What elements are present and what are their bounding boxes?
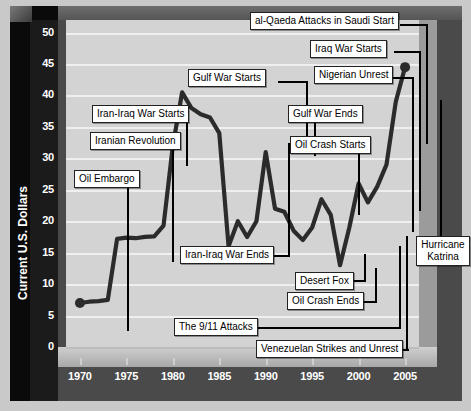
x-axis-tick-label: 1980 xyxy=(151,370,195,382)
y-axis-title: Current U.S. Dollars xyxy=(16,186,30,300)
leader-desert-fox-v xyxy=(364,254,366,282)
y-axis-tick-label: 50 xyxy=(6,26,54,38)
callout-iraq-war-starts: Iraq War Starts xyxy=(310,40,387,58)
chart-screenshot: 50454035302520151050 1970197519801985199… xyxy=(0,0,471,411)
y-axis-tick-label: 45 xyxy=(6,57,54,69)
x-axis-tick-mark xyxy=(80,358,82,365)
data-point-marker xyxy=(75,298,85,308)
data-point-marker xyxy=(400,62,410,72)
leader-oil-embargo xyxy=(127,186,129,331)
x-axis-tick-label: 1975 xyxy=(104,370,148,382)
y-axis-tick-label: 25 xyxy=(6,183,54,195)
leader-iranian-revolution xyxy=(172,148,174,262)
y-axis-tick-label: 20 xyxy=(6,214,54,226)
callout-alqaeda-saudi: al-Qaeda Attacks in Saudi Start xyxy=(250,12,399,30)
y-axis-tick-label: 35 xyxy=(6,120,54,132)
x-axis-tick-label: 2005 xyxy=(383,370,427,382)
leader-911-v xyxy=(399,246,401,329)
leader-911-h xyxy=(256,327,401,329)
leader-iraq-war-starts-h xyxy=(394,51,421,53)
leader-gulf-war-starts-h xyxy=(278,81,308,83)
y-axis-tick-label: 10 xyxy=(6,277,54,289)
leader-nigerian-unrest-h xyxy=(392,77,414,79)
leader-oil-crash-starts xyxy=(358,152,360,215)
x-axis-tick-label: 1990 xyxy=(244,370,288,382)
x-axis-tick-mark xyxy=(219,358,221,365)
y-axis-tick-label: 5 xyxy=(6,309,54,321)
leader-alqaeda-h xyxy=(400,24,428,26)
leader-iraq-war-starts-v xyxy=(419,51,421,211)
callout-nigerian-unrest: Nigerian Unrest xyxy=(314,66,393,84)
x-axis-tick-mark xyxy=(173,358,175,365)
leader-oil-crash-ends-v xyxy=(375,268,377,303)
x-axis-tick-label: 1995 xyxy=(290,370,334,382)
x-axis-tick-mark xyxy=(312,358,314,365)
leader-nigerian-unrest-v xyxy=(412,77,414,232)
x-axis-tick-mark xyxy=(405,358,407,365)
y-axis-tick-label: 0 xyxy=(6,340,54,352)
x-axis-tick-mark xyxy=(359,358,361,365)
y-axis-tick-label: 15 xyxy=(6,246,54,258)
callout-oil-crash-starts: Oil Crash Starts xyxy=(290,136,371,154)
callout-hurricane-katrina-line1: Hurricane xyxy=(421,239,464,250)
leader-iran-iraq-war-ends xyxy=(288,143,290,256)
x-axis-tick-label: 1970 xyxy=(58,370,102,382)
x-axis-tick-mark xyxy=(266,358,268,365)
y-axis-wall-corner xyxy=(10,6,32,22)
callout-venezuelan-strikes: Venezuelan Strikes and Unrest xyxy=(256,340,403,358)
callout-hurricane-katrina: Hurricane Katrina xyxy=(416,236,470,266)
callout-iran-iraq-war-ends: Iran-Iraq War Ends xyxy=(180,246,274,264)
callout-gulf-war-starts: Gulf War Starts xyxy=(188,69,266,87)
x-axis-tick-label: 2000 xyxy=(337,370,381,382)
leader-iran-iraq-war-starts xyxy=(186,121,188,166)
callout-oil-embargo: Oil Embargo xyxy=(74,170,140,188)
callout-the-911-attacks: The 9/11 Attacks xyxy=(174,318,258,336)
callout-desert-fox: Desert Fox xyxy=(295,272,354,290)
x-axis-tick-mark xyxy=(126,358,128,365)
leader-alqaeda-v xyxy=(426,24,428,144)
plot-area-right-shadow xyxy=(419,20,437,347)
y-axis-tick-label: 40 xyxy=(6,88,54,100)
leader-hurricane-katrina xyxy=(440,100,442,240)
x-axis-tick-label: 1985 xyxy=(197,370,241,382)
leader-venezuelan-v xyxy=(406,236,408,351)
callout-iranian-revolution: Iranian Revolution xyxy=(90,132,181,150)
callout-hurricane-katrina-line2: Katrina xyxy=(427,251,459,262)
callout-gulf-war-ends: Gulf War Ends xyxy=(288,105,363,123)
y-axis-tick-label: 30 xyxy=(6,151,54,163)
callout-oil-crash-ends: Oil Crash Ends xyxy=(287,292,364,310)
callout-iran-iraq-war-starts: Iran-Iraq War Starts xyxy=(92,105,189,123)
